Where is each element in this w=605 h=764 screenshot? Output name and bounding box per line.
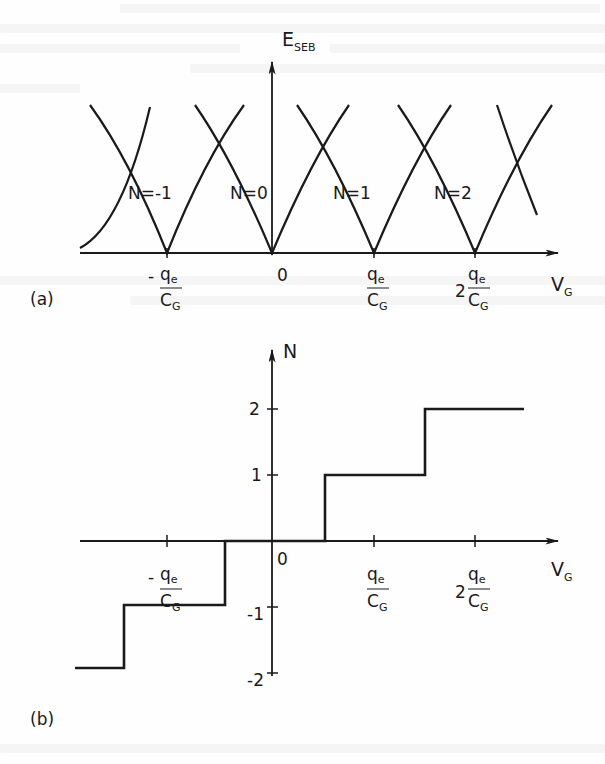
svg-text:CG: CG — [160, 591, 180, 614]
panel-b: 2 1 -1 -2 N VG 0 - qe CG qe CG 2 qe — [30, 340, 573, 729]
panel-a-y-axis-label: ESEB — [282, 28, 316, 54]
panel-b-label: (b) — [30, 709, 54, 729]
figure-svg: N=-1 N=0 N=1 N=2 ESEB VG 0 - qe CG qe CG… — [0, 0, 605, 764]
svg-text:qe: qe — [160, 564, 178, 586]
curve-label-n-2: N=2 — [434, 183, 472, 203]
panel-a: N=-1 N=0 N=1 N=2 ESEB VG 0 - qe CG qe CG… — [30, 28, 573, 313]
curve-label-n-1: N=1 — [333, 183, 371, 203]
svg-text:CG: CG — [468, 290, 488, 313]
panel-b-origin-label: 0 — [277, 549, 288, 569]
figure-page: N=-1 N=0 N=1 N=2 ESEB VG 0 - qe CG qe CG… — [0, 0, 605, 764]
svg-text:2: 2 — [455, 582, 466, 602]
parabola-n-minus-2 — [80, 107, 150, 248]
panel-a-tick-minus-qe-cg: - qe CG — [148, 264, 182, 313]
panel-b-tick-minus-qe-cg: - qe CG — [148, 564, 182, 614]
parabola-n-2 — [398, 105, 552, 253]
svg-text:CG: CG — [367, 591, 387, 614]
panel-a-tick-qe-cg: qe CG — [367, 264, 389, 313]
panel-a-tick-2qe-cg: 2 qe CG — [455, 264, 490, 313]
svg-text:-: - — [148, 567, 154, 587]
svg-text:-: - — [148, 266, 154, 286]
coulomb-staircase — [75, 409, 524, 668]
curve-label-n-0: N=0 — [230, 183, 268, 203]
svg-text:qe: qe — [367, 564, 385, 586]
panel-b-y-axis-label: N — [283, 340, 297, 362]
panel-b-y-tick-minus-1: -1 — [247, 604, 264, 624]
panel-b-tick-2qe-cg: 2 qe CG — [455, 564, 490, 614]
svg-text:2: 2 — [455, 281, 466, 301]
panel-a-label: (a) — [30, 289, 54, 309]
panel-b-tick-qe-cg: qe CG — [367, 564, 389, 614]
svg-text:CG: CG — [160, 290, 180, 313]
panel-a-x-axis-label: VG — [551, 273, 573, 299]
svg-text:qe: qe — [160, 264, 178, 286]
panel-b-y-tick-2: 2 — [249, 399, 260, 419]
panel-b-x-axis-label: VG — [551, 558, 573, 584]
svg-text:qe: qe — [367, 264, 385, 286]
svg-text:qe: qe — [468, 264, 486, 286]
parabola-n-minus-1 — [90, 105, 244, 253]
svg-text:CG: CG — [468, 591, 488, 614]
panel-a-energy-parabolas — [80, 105, 552, 253]
panel-a-origin-label: 0 — [277, 265, 288, 285]
parabola-n-1 — [297, 105, 451, 253]
panel-b-y-tick-minus-2: -2 — [247, 670, 264, 690]
svg-text:CG: CG — [367, 290, 387, 313]
panel-b-y-tick-1: 1 — [251, 465, 262, 485]
curve-label-n-minus-1: N=-1 — [128, 183, 172, 203]
parabola-n-3 — [497, 105, 537, 215]
svg-text:qe: qe — [468, 564, 486, 586]
